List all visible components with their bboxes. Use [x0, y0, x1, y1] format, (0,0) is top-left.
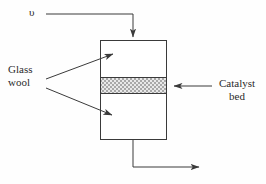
catalyst-bed-label-line2: bed [229, 90, 245, 102]
flow-rate-symbol-label: υ [29, 6, 34, 19]
inlet-flow-line [46, 14, 133, 37]
outlet-flow-line [133, 140, 199, 167]
catalyst-bed-label: Catalystbed [210, 77, 264, 103]
glass-wool-label: Glasswool [8, 63, 54, 89]
glass-wool-label-line2: wool [8, 76, 30, 88]
catalyst-bed-band [101, 78, 167, 94]
diagram-canvas: υ Glasswool Catalystbed [0, 0, 266, 184]
glass-wool-label-line1: Glass [8, 63, 32, 75]
catalyst-bed-label-line1: Catalyst [219, 77, 255, 89]
